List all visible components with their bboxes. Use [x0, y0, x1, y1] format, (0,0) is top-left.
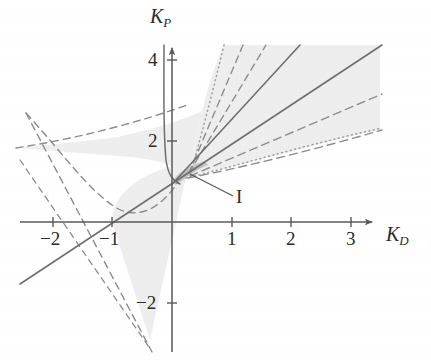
x-axis-title-subscript: D	[399, 233, 408, 248]
x-axis-title: KD	[386, 223, 409, 246]
solid-line-lower	[20, 45, 382, 284]
y-tick-label--2: −2	[136, 292, 156, 314]
y-axis-title: KP	[150, 5, 171, 28]
x-axis-title-base: K	[386, 223, 399, 245]
y-tick-label-4: 4	[148, 49, 158, 71]
chart-figure: KP KD −2 −1 1 2 3 4 2 −2 I	[0, 0, 431, 360]
annotation-leader-group	[190, 174, 233, 196]
x-tick-label--1: −1	[99, 228, 119, 250]
x-tick-label-2: 2	[286, 228, 296, 250]
x-tick-label--2: −2	[40, 228, 60, 250]
plot-svg	[0, 0, 431, 360]
y-axis-title-subscript: P	[163, 15, 171, 30]
region-label-I: I	[236, 186, 242, 208]
shaded-region-group	[18, 45, 380, 340]
x-tick-label-1: 1	[227, 228, 237, 250]
y-tick-label-2: 2	[148, 130, 158, 152]
y-axis-title-base: K	[150, 5, 163, 27]
annotation-leader-line	[190, 174, 233, 196]
x-tick-label-3: 3	[346, 228, 356, 250]
